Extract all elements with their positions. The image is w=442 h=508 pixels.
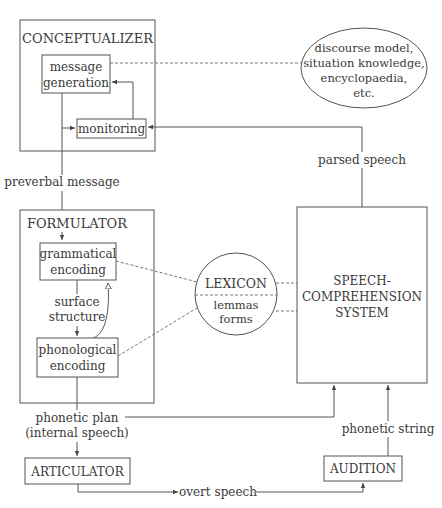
articulator-box: ARTICULATOR (25, 458, 130, 484)
svg-text:SYSTEM: SYSTEM (335, 306, 388, 320)
svg-text:SPEECH-: SPEECH- (333, 274, 391, 288)
svg-text:monitoring: monitoring (78, 122, 146, 136)
overt-speech-label: overt speech (179, 485, 257, 499)
svg-text:lemmas: lemmas (213, 298, 258, 312)
conceptualizer-title: CONCEPTUALIZER (22, 31, 154, 46)
internal-speech-to-comprehension-arrow (123, 385, 334, 417)
speech-comprehension-box: SPEECH- COMPREHENSION SYSTEM (297, 207, 427, 383)
message-generation-box: message generation (42, 55, 110, 93)
svg-text:encoding: encoding (50, 263, 106, 277)
knowledge-store-ellipse: discourse model, situation knowledge, en… (301, 28, 427, 108)
monitoring-box: monitoring (77, 119, 146, 138)
overt-speech-arrow-in (78, 484, 178, 492)
phonological-encoding-box: phonological encoding (37, 338, 118, 377)
surface-structure-label: surface (54, 295, 99, 309)
phonetic-string-label: phonetic string (342, 422, 435, 436)
svg-text:(internal speech): (internal speech) (25, 426, 129, 440)
svg-text:encyclopaedia,: encyclopaedia, (321, 71, 408, 85)
svg-text:etc.: etc. (353, 86, 375, 100)
svg-text:discourse model,: discourse model, (315, 41, 414, 55)
overt-speech-arrow-out (256, 483, 363, 492)
grammatical-encoding-box: grammatical encoding (40, 243, 117, 280)
formulator-title: FORMULATOR (27, 216, 128, 231)
parsed-speech-label: parsed speech (318, 153, 406, 167)
preverbal-message-label: preverbal message (4, 175, 119, 189)
svg-text:AUDITION: AUDITION (329, 462, 396, 476)
speech-production-diagram: CONCEPTUALIZER message generation monito… (0, 0, 442, 508)
svg-text:forms: forms (219, 312, 253, 326)
svg-text:structure: structure (49, 310, 106, 324)
svg-text:grammatical: grammatical (40, 247, 117, 261)
lexicon-circle: LEXICON lemmas forms (195, 253, 277, 335)
svg-text:message: message (50, 60, 103, 74)
svg-text:encoding: encoding (50, 359, 106, 373)
audition-box: AUDITION (324, 456, 402, 481)
svg-text:generation: generation (43, 76, 109, 90)
svg-text:situation knowledge,: situation knowledge, (303, 56, 425, 70)
phonetic-plan-label: phonetic plan (35, 411, 118, 425)
lexicon-title: LEXICON (205, 276, 267, 291)
svg-text:COMPREHENSION: COMPREHENSION (302, 290, 422, 304)
svg-text:phonological: phonological (39, 343, 117, 357)
svg-text:ARTICULATOR: ARTICULATOR (30, 465, 124, 479)
